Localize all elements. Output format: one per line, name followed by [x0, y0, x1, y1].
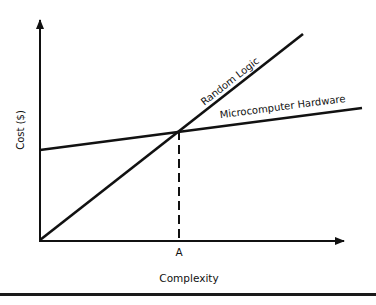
microcomputer-hardware-label: Microcomputer Hardware [219, 93, 346, 120]
random-logic-label: Random Logic [199, 55, 261, 107]
cost-vs-complexity-chart: Cost ($) Complexity A Random Logic Micro… [0, 0, 376, 305]
y-axis-label: Cost ($) [15, 110, 26, 150]
bottom-rule-divider [0, 293, 376, 296]
random-logic-line [40, 34, 303, 240]
x-axis-label: Complexity [159, 272, 218, 284]
tick-label-a: A [175, 246, 183, 258]
chart-svg: Cost ($) Complexity A Random Logic Micro… [0, 0, 376, 305]
